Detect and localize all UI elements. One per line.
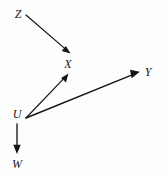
- node-label-y: Y: [145, 66, 152, 78]
- edge-u-to-x-arrowhead: [61, 74, 68, 83]
- node-label-x: X: [64, 58, 71, 70]
- edge-u-to-y-arrowhead: [130, 70, 140, 79]
- diagram-canvas: Z X Y U W: [0, 0, 166, 178]
- edge-u-to-y-line: [26, 74, 135, 118]
- edge-u-to-x-line: [26, 78, 65, 118]
- node-label-z: Z: [15, 8, 22, 20]
- edge-u-to-w-arrowhead: [13, 145, 20, 154]
- edge-u-to-w: [13, 124, 20, 154]
- edge-z-to-x: [26, 15, 71, 54]
- node-label-u: U: [13, 108, 22, 120]
- node-label-w: W: [12, 158, 22, 170]
- graph-edges-layer: [0, 0, 166, 178]
- edge-u-to-y: [26, 70, 140, 118]
- edge-z-to-x-line: [26, 15, 66, 50]
- edge-u-to-x: [26, 74, 68, 118]
